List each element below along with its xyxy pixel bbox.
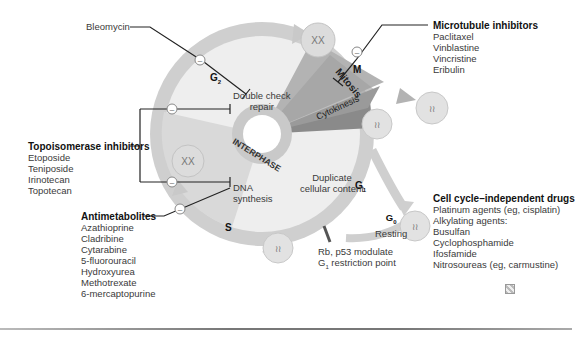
svg-text:XX: XX	[181, 156, 195, 167]
divider	[0, 328, 572, 330]
g0-branch	[372, 150, 404, 208]
svg-text:–: –	[198, 56, 203, 65]
svg-text:–: –	[170, 105, 175, 114]
cell-daughter-2: ≀≀	[362, 109, 392, 139]
phase-s: S	[225, 222, 232, 233]
cell-cycle-independent-group: Cell cycle–independent drugs Platinum ag…	[433, 193, 575, 270]
cell-s: XX	[172, 145, 204, 177]
label-dna-synthesis: DNAsynthesis	[233, 182, 273, 204]
cell-g1: ≀≀	[263, 233, 293, 263]
svg-text:≀≀: ≀≀	[412, 222, 418, 232]
svg-text:–: –	[170, 178, 175, 187]
restriction-bar	[324, 226, 330, 242]
label-restriction-point: Rb, p53 modulate G1 restriction point	[318, 246, 396, 273]
svg-text:≀≀: ≀≀	[275, 244, 281, 254]
svg-text:–: –	[355, 48, 360, 57]
phase-m: M	[353, 64, 361, 75]
cell-m: XX	[301, 23, 335, 57]
svg-text:≀≀: ≀≀	[374, 120, 380, 130]
figure-expand-icon[interactable]	[505, 284, 515, 294]
cell-daughter-1: ≀≀	[416, 92, 448, 124]
svg-text:XX: XX	[311, 35, 325, 46]
svg-text:≀≀: ≀≀	[429, 104, 435, 114]
topoisomerase-group: Topoisomerase inhibitors Etoposide Tenip…	[28, 141, 150, 196]
phase-g0: G0 Resting	[375, 212, 407, 239]
svg-text:–: –	[178, 205, 183, 214]
label-double-check: Double checkrepair	[233, 90, 291, 112]
arrow-m-out	[396, 88, 416, 104]
phase-g2: G2	[210, 72, 221, 88]
label-duplicate: Duplicatecellular content	[300, 172, 364, 194]
bleomycin-label: Bleomycin	[86, 21, 130, 32]
antimetabolites-group: Antimetabolites Azathioprine Cladribine …	[81, 211, 156, 299]
microtubule-group: Microtubule inhibitors Paclitaxel Vinbla…	[433, 20, 538, 75]
